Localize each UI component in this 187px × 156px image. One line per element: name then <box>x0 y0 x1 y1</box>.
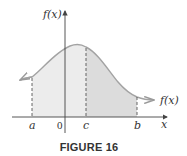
shaded-region-a-to-c <box>32 45 86 117</box>
curve-label: f(x) <box>159 94 179 107</box>
tick-label-a: a <box>29 119 36 132</box>
x-axis-label: x <box>161 118 168 131</box>
tick-label-origin: 0 <box>57 119 63 131</box>
curve-left-arrow <box>20 77 32 80</box>
figure-caption: FIGURE 16 <box>60 141 119 153</box>
tick-label-b: b <box>134 119 141 132</box>
y-axis-label: f(x) <box>42 8 62 21</box>
shaded-region-c-to-b <box>86 47 137 117</box>
tick-label-c: c <box>83 119 89 132</box>
figure-diagram: f(x) f(x) x a 0 c b FIGURE 16 <box>0 0 187 156</box>
